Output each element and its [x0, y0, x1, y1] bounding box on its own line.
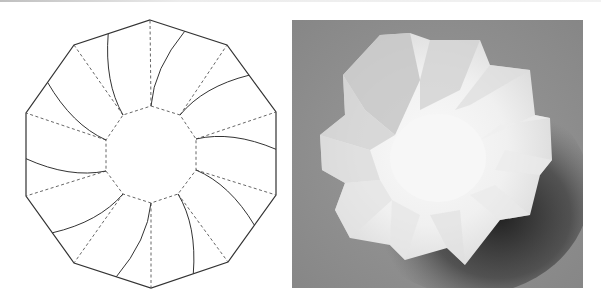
radial-fold-line: [26, 113, 106, 140]
radial-fold-line: [178, 194, 228, 262]
curved-fold-line: [180, 75, 249, 115]
folded-bowl-photo: [292, 20, 583, 288]
curved-fold-line: [108, 34, 123, 115]
radial-fold-line: [150, 20, 151, 106]
inner-decagon: [106, 106, 196, 203]
bowl-center: [390, 114, 486, 202]
radial-fold-line: [180, 45, 227, 115]
curved-fold-line: [196, 136, 276, 149]
curved-fold-line: [196, 170, 254, 225]
curved-fold-line: [48, 82, 106, 140]
curved-fold-line: [178, 194, 194, 274]
curved-fold-line: [116, 203, 151, 277]
bowl-photo-svg: [292, 20, 583, 288]
crease-pattern-diagram: [0, 0, 300, 301]
radial-fold-line: [196, 112, 276, 139]
crease-pattern-svg: [0, 0, 300, 301]
curved-fold-line: [52, 194, 123, 233]
curved-fold-line: [26, 159, 106, 173]
radial-fold-line: [74, 194, 123, 263]
curved-fold-line: [151, 31, 185, 106]
curved-mountain-folds: [26, 31, 276, 276]
radial-fold-line: [74, 45, 123, 115]
radial-fold-line: [26, 171, 106, 196]
radial-fold-line: [196, 170, 276, 195]
